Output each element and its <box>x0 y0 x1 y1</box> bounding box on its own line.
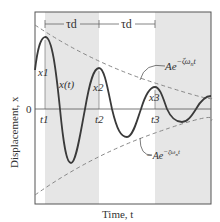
shaded-band-1 <box>45 12 99 204</box>
time-label-t3: t3 <box>151 113 160 125</box>
time-label-t2: t2 <box>95 113 104 125</box>
curve-label: x(t) <box>58 78 75 91</box>
period-label-2: τd <box>121 17 132 31</box>
shaded-band-2 <box>155 12 211 204</box>
peak-label-x2: x2 <box>92 81 104 93</box>
y-axis-label: Displacement, x <box>8 96 20 168</box>
peak-label-x1: x1 <box>37 66 48 78</box>
damped-vibration-figure: τd τd x1 x2 x3 t1 t2 t3 x(t) 0 Ae−ζωnt −… <box>0 0 220 222</box>
period-label-1: τd <box>66 17 77 31</box>
peak-label-x3: x3 <box>148 91 160 103</box>
time-label-t1: t1 <box>40 113 49 125</box>
x-axis-label: Time, t <box>102 208 133 220</box>
zero-tick-label: 0 <box>26 103 32 115</box>
